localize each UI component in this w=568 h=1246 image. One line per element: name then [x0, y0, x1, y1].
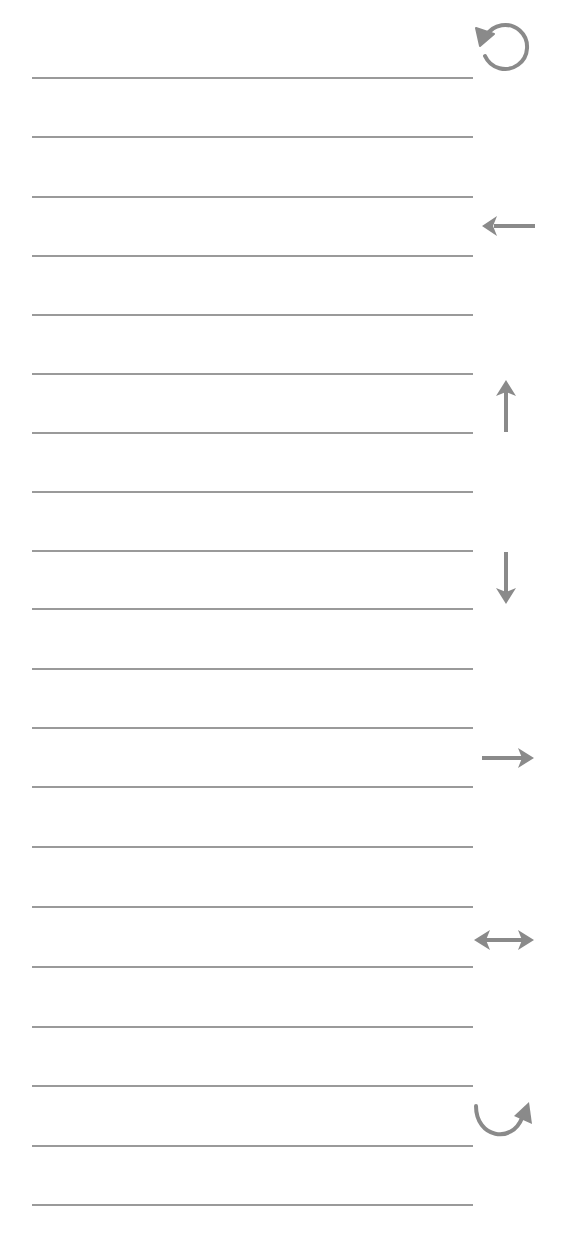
rotate-ccw-button[interactable] [472, 18, 532, 74]
ruled-line [32, 727, 473, 729]
ruled-line [32, 966, 473, 968]
arrow-left-button[interactable] [480, 212, 536, 240]
redo-curve-icon [472, 1098, 536, 1144]
arrow-right-button[interactable] [480, 744, 536, 772]
ruled-line [32, 668, 473, 670]
ruled-line [32, 136, 473, 138]
arrow-left-right-button[interactable] [472, 926, 536, 954]
rotate-ccw-icon [472, 18, 532, 74]
ruled-line [32, 1204, 473, 1206]
ruled-line [32, 491, 473, 493]
ruled-line [32, 255, 473, 257]
arrow-right-icon [480, 744, 536, 772]
ruled-line [32, 786, 473, 788]
ruled-line [32, 196, 473, 198]
ruled-line [32, 1145, 473, 1147]
arrow-up-button[interactable] [492, 378, 520, 434]
ruled-line [32, 1085, 473, 1087]
arrow-down-icon [492, 550, 520, 606]
ruled-line [32, 608, 473, 610]
ruled-line [32, 906, 473, 908]
ruled-line [32, 550, 473, 552]
arrow-left-icon [480, 212, 536, 240]
arrow-up-icon [492, 378, 520, 434]
ruled-line [32, 77, 473, 79]
ruled-line [32, 314, 473, 316]
ruled-line [32, 846, 473, 848]
ruled-line [32, 432, 473, 434]
arrow-down-button[interactable] [492, 550, 520, 606]
ruled-line [32, 373, 473, 375]
curved-arrow-button[interactable] [472, 1098, 536, 1144]
arrow-left-right-icon [472, 926, 536, 954]
ruled-lines-canvas [0, 0, 568, 1246]
ruled-line [32, 1026, 473, 1028]
